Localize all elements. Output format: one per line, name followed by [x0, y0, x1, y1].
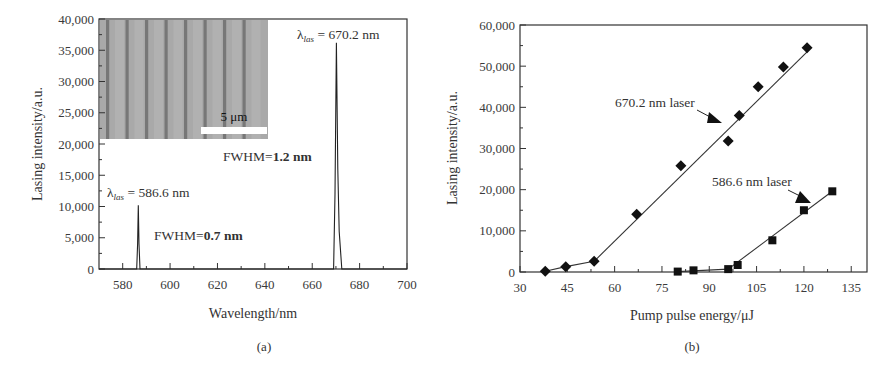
x-tick-label: 60	[608, 280, 621, 295]
square-marker	[768, 236, 776, 244]
square-marker	[828, 187, 836, 195]
x-tick-label: 120	[794, 280, 814, 295]
x-tick-label: 620	[208, 277, 228, 292]
scale-bar	[201, 127, 267, 134]
y-tick-label: 20,000	[479, 182, 515, 197]
y-tick-label: 0	[88, 262, 95, 277]
diamond-marker	[723, 136, 734, 147]
plot-frame	[520, 25, 867, 272]
x-tick-label: 640	[255, 277, 275, 292]
arrow-586-icon	[788, 190, 811, 203]
fwhm-label-670: FWHM=1.2 nm	[223, 149, 312, 164]
y-tick-label: 30,000	[479, 141, 515, 156]
diamond-marker	[675, 160, 686, 171]
x-tick-label: 45	[561, 280, 574, 295]
square-marker	[674, 268, 682, 276]
diamond-marker	[631, 209, 642, 220]
y-tick-label: 10,000	[58, 199, 94, 214]
y-tick-label: 15,000	[58, 168, 94, 183]
diamond-marker	[540, 266, 551, 277]
data-markers	[540, 42, 837, 277]
x-axis-title-b: Pump pulse energy/μJ	[630, 308, 754, 323]
x-tick-label: 600	[160, 277, 180, 292]
x-tick-label: 105	[747, 280, 767, 295]
diamond-marker	[753, 81, 764, 92]
panel-b-axes: 3045607590105120135010,00020,00030,00040…	[479, 18, 867, 296]
square-marker	[800, 206, 808, 214]
peak-label-586: λlas = 586.6 nm	[107, 185, 190, 202]
x-tick-label: 680	[350, 277, 370, 292]
fit-line	[594, 52, 807, 261]
y-tick-label: 5,000	[65, 230, 94, 245]
y-tick-label: 40,000	[58, 12, 94, 27]
y-axis-title-b: Lasing intensity/a.u.	[445, 91, 460, 205]
x-tick-label: 30	[514, 280, 527, 295]
diamond-marker	[734, 110, 745, 121]
y-tick-label: 60,000	[479, 18, 515, 33]
scale-bar-label: 5 μm	[221, 109, 248, 124]
diamond-marker	[560, 261, 571, 272]
y-tick-label: 40,000	[479, 100, 515, 115]
inset-micrograph: 5 μm	[100, 20, 268, 139]
y-tick-label: 10,000	[479, 223, 515, 238]
x-tick-label: 90	[703, 280, 716, 295]
caption-b: (b)	[684, 339, 699, 354]
panel-a-spectrum-chart: 5 μm 58060062064066068070005,00010,00015…	[30, 12, 417, 355]
x-tick-label: 75	[655, 280, 668, 295]
fit-line	[728, 191, 832, 269]
series-label-586: 586.6 nm laser	[712, 174, 792, 189]
y-tick-label: 30,000	[58, 74, 94, 89]
square-marker	[724, 265, 732, 273]
fit-lines	[545, 52, 832, 272]
diamond-marker	[802, 42, 813, 53]
y-tick-label: 50,000	[479, 59, 515, 74]
fwhm-label-586: FWHM=0.7 nm	[154, 228, 243, 243]
square-marker	[690, 266, 698, 274]
series-label-670: 670.2 nm laser	[615, 95, 695, 110]
y-axis-title-a: Lasing intensity/a.u.	[30, 87, 45, 201]
y-tick-label: 35,000	[58, 43, 94, 58]
x-tick-label: 700	[397, 277, 417, 292]
peak-label-670: λlas = 670.2 nm	[297, 27, 380, 44]
x-tick-label: 580	[113, 277, 133, 292]
square-marker	[734, 261, 742, 269]
y-tick-label: 25,000	[58, 105, 94, 120]
arrow-670-icon	[697, 110, 722, 123]
y-tick-label: 0	[509, 265, 516, 280]
x-tick-label: 660	[302, 277, 322, 292]
caption-a: (a)	[257, 339, 271, 354]
x-axis-title-a: Wavelength/nm	[209, 306, 297, 321]
y-tick-label: 20,000	[58, 137, 94, 152]
figure: 5 μm 58060062064066068070005,00010,00015…	[0, 0, 893, 368]
panel-b-intensity-vs-energy-chart: 3045607590105120135010,00020,00030,00040…	[445, 18, 867, 355]
x-tick-label: 135	[841, 280, 861, 295]
